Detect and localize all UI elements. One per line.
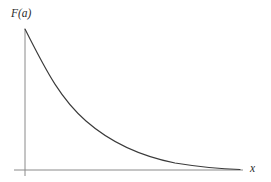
decay-curve	[25, 29, 240, 170]
plot-canvas	[0, 0, 271, 182]
x-axis-label: x	[250, 163, 255, 175]
figure-root: F(a) x	[0, 0, 271, 182]
y-axis-label: F(a)	[11, 8, 31, 20]
